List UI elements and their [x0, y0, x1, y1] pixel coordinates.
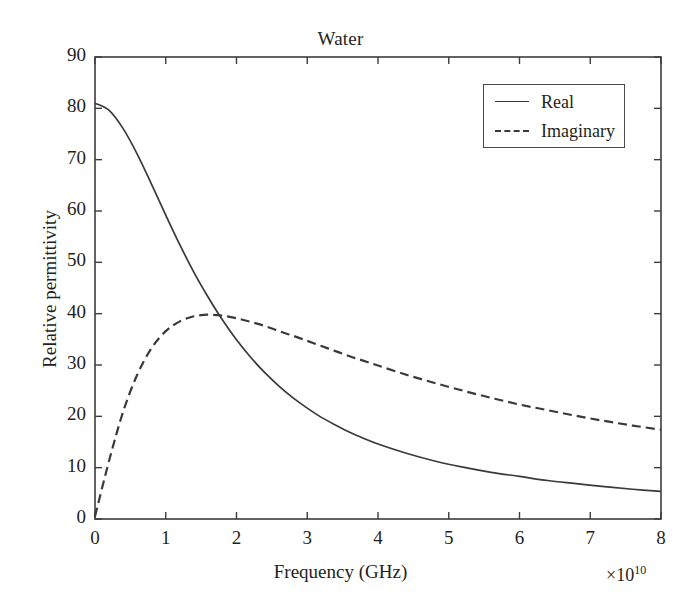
- x-tick-label: 4: [348, 527, 408, 549]
- x-tick-label: 7: [560, 527, 620, 549]
- legend-label-real: Real: [541, 92, 574, 113]
- x-axis-label-text: Frequency (GHz): [274, 561, 407, 583]
- x-exponent-power: 10: [634, 563, 646, 577]
- y-tick-label: 10: [26, 455, 86, 477]
- series-line-real: [95, 103, 661, 491]
- y-axis-label: Relative permittivity: [39, 139, 61, 439]
- x-tick-label: 5: [419, 527, 479, 549]
- y-tick-label: 80: [26, 95, 86, 117]
- legend-swatch-solid-line-icon: [493, 95, 533, 109]
- y-tick-label: 90: [26, 44, 86, 66]
- x-exponent-prefix: ×10: [606, 565, 634, 585]
- legend-label-imaginary: Imaginary: [541, 121, 615, 142]
- x-axis-label: Frequency (GHz): [0, 561, 694, 583]
- legend-item-imaginary: Imaginary: [484, 116, 626, 146]
- series-line-imaginary: [95, 315, 661, 517]
- x-tick-label: 1: [136, 527, 196, 549]
- x-tick-label: 2: [207, 527, 267, 549]
- legend-swatch-dashed-line-icon: [493, 124, 533, 138]
- x-axis-exponent: ×1010: [606, 563, 646, 586]
- x-tick-label: 3: [277, 527, 337, 549]
- chart-legend: Real Imaginary: [483, 84, 625, 148]
- chart-figure: Water 0102030405060708090 012345678 Freq…: [0, 0, 694, 613]
- legend-item-real: Real: [484, 87, 626, 117]
- x-tick-label: 8: [631, 527, 691, 549]
- y-tick-label: 0: [26, 506, 86, 528]
- x-tick-label: 6: [490, 527, 550, 549]
- x-tick-label: 0: [65, 527, 125, 549]
